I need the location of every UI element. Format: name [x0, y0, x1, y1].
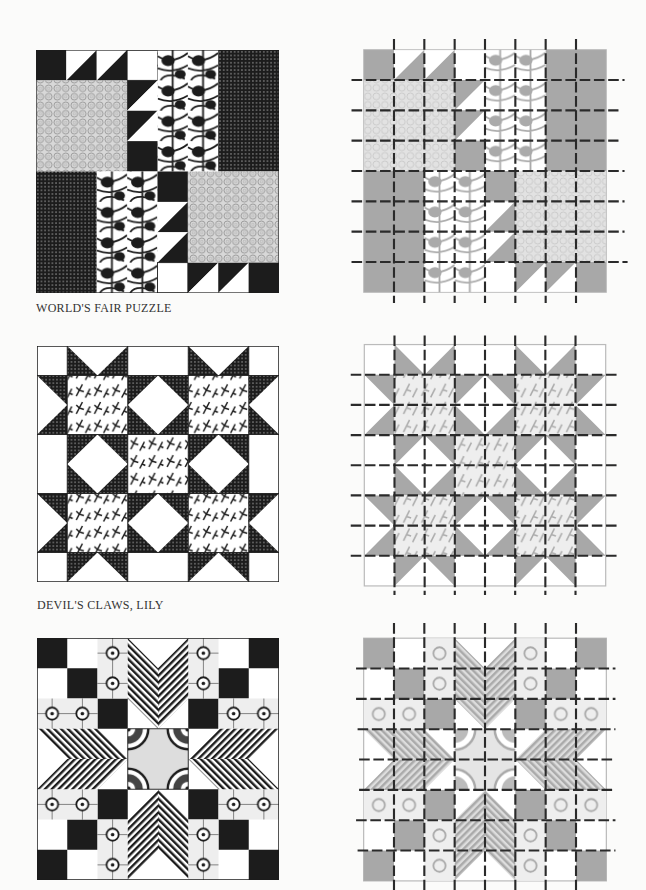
worlds-fair-puzzle-illustration	[36, 50, 279, 293]
eight-point-star-diagram	[330, 620, 640, 890]
worlds-fair-puzzle-block	[36, 50, 279, 293]
eight-point-star-block	[37, 638, 279, 880]
devils-claws-lily-block	[37, 346, 279, 582]
devils-claws-lily-diagram	[330, 334, 640, 598]
worlds-fair-puzzle-diagram	[330, 36, 640, 306]
caption-worlds-fair-puzzle: WORLD'S FAIR PUZZLE	[36, 301, 172, 316]
devils-claws-lily-cutting-diagram	[330, 334, 640, 598]
eight-point-star-illustration	[37, 638, 279, 880]
worlds-fair-puzzle-cutting-diagram	[330, 36, 640, 306]
eight-point-star-cutting-diagram	[330, 620, 640, 890]
devils-claws-lily-illustration	[37, 346, 279, 582]
caption-devils-claws-lily: DEVIL'S CLAWS, LILY	[37, 598, 164, 613]
